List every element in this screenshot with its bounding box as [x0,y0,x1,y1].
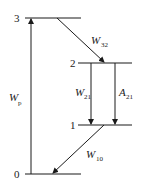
level-2-label: 2 [70,57,76,69]
transition-wp: W p [9,19,31,174]
transition-w10: W 10 [53,125,104,173]
wp-subscript: p [18,99,22,107]
transition-w32: W 32 [57,18,109,62]
transition-w21: W 21 [75,63,92,124]
a21-subscript: 21 [126,93,134,101]
level-0: 0 [14,168,81,180]
w32-subscript: 32 [101,41,109,49]
energy-level-diagram: 3 2 1 0 W p W 32 W 21 A 21 W 10 [0,0,141,188]
w32-symbol: W [91,34,101,46]
w21-subscript: 21 [84,93,92,101]
a21-symbol: A [118,86,126,98]
level-3-label: 3 [14,12,20,24]
level-3: 3 [14,12,81,24]
level-0-label: 0 [14,168,20,180]
level-1-label: 1 [70,119,76,131]
level-1: 1 [70,119,132,131]
transition-a21: A 21 [115,63,134,124]
arrow-diagonal-icon [53,125,104,173]
w10-subscript: 10 [96,155,104,163]
w10-symbol: W [86,148,96,160]
